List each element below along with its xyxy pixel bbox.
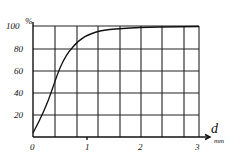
y-tick-60: 60 bbox=[14, 66, 24, 76]
x-tick-0: 0 bbox=[30, 142, 35, 152]
y-tick-100: 100 bbox=[6, 21, 20, 31]
x-tick-2: 2 bbox=[138, 142, 143, 152]
x-tick-1: 1 bbox=[85, 142, 90, 152]
x-axis-label: d bbox=[211, 121, 219, 136]
x-tick-3: 3 bbox=[194, 142, 200, 152]
y-tick-20: 20 bbox=[14, 110, 24, 120]
y-tick-40: 40 bbox=[14, 88, 24, 98]
y-tick-80: 80 bbox=[14, 44, 24, 54]
x-axis-unit: mm bbox=[214, 137, 224, 145]
grid bbox=[33, 26, 199, 137]
y-unit-label: % bbox=[25, 16, 33, 26]
data-curve bbox=[33, 27, 199, 134]
chart: 100 80 60 40 20 % 0 1 2 3 d mm bbox=[0, 0, 240, 164]
